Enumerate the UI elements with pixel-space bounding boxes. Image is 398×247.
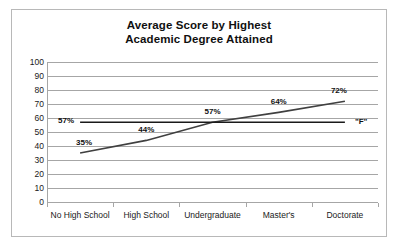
y-tick-label: 100	[18, 58, 44, 66]
data-point-label: 57%	[58, 117, 74, 125]
x-axis-tick	[378, 203, 379, 207]
series-end-label: "F"	[355, 118, 367, 126]
x-tick-label: Undergraduate	[184, 210, 241, 220]
y-tick-label: 70	[18, 100, 44, 108]
y-axis-labels: 1009080706050403020100	[15, 62, 44, 202]
x-axis-tick	[179, 203, 180, 207]
x-axis-tick	[312, 203, 313, 207]
y-tick-label: 60	[18, 114, 44, 122]
data-point-label: 72%	[331, 87, 347, 95]
x-axis-ticks	[47, 203, 378, 208]
y-tick-label: 50	[18, 128, 44, 136]
data-point-label: 64%	[271, 98, 287, 106]
x-axis-labels: No High SchoolHigh SchoolUndergraduateMa…	[47, 210, 378, 224]
data-point-label: 57%	[204, 108, 220, 116]
y-tick-label: 90	[18, 72, 44, 80]
x-axis-tick	[47, 203, 48, 207]
data-point-label: 35%	[76, 139, 92, 147]
chart-frame: Average Score by Highest Academic Degree…	[11, 9, 387, 237]
y-tick-label: 10	[18, 184, 44, 192]
series-lines	[47, 62, 378, 202]
y-tick-label: 80	[18, 86, 44, 94]
y-tick-label: 0	[18, 198, 44, 206]
x-axis-tick	[113, 203, 114, 207]
chart-title-line-2: Academic Degree Attained	[12, 32, 386, 46]
x-axis-tick	[246, 203, 247, 207]
x-tick-label: Doctorate	[326, 210, 363, 220]
data-point-label: 44%	[138, 126, 154, 134]
x-tick-label: Master's	[263, 210, 295, 220]
y-tick-label: 40	[18, 142, 44, 150]
y-tick-label: 20	[18, 170, 44, 178]
x-tick-label: No High School	[51, 210, 110, 220]
y-tick-label: 30	[18, 156, 44, 164]
chart-title: Average Score by Highest Academic Degree…	[12, 18, 386, 46]
plot-area: 35%44%57%64%72%57%"F"	[47, 62, 378, 202]
chart-title-line-1: Average Score by Highest	[12, 18, 386, 32]
x-tick-label: High School	[123, 210, 169, 220]
